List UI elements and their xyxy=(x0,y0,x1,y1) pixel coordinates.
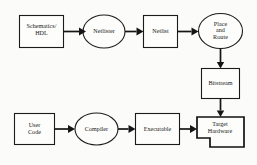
node-target-hardware-shape xyxy=(197,117,244,147)
node-executable-shape xyxy=(136,114,180,145)
edge-netlist-to-place-route xyxy=(178,28,199,36)
edge-usercode-to-compiler xyxy=(55,125,76,133)
node-netlister-shape xyxy=(83,15,125,48)
edge-compiler-to-executable xyxy=(118,125,136,133)
node-compiler-shape xyxy=(75,113,118,145)
node-schematics-hdl-shape xyxy=(20,16,64,48)
node-netlist-shape xyxy=(144,16,178,48)
edge-bitstream-to-target xyxy=(217,99,224,118)
edge-place-route-to-bitstream xyxy=(217,49,224,69)
diagram-svg xyxy=(0,0,257,165)
edge-netlister-to-netlist xyxy=(125,28,144,36)
edge-schematics-to-netlister xyxy=(64,28,87,36)
diagram-canvas: Schematics/ HDL Netlister Netlist Place … xyxy=(0,0,257,165)
node-bitstream-shape xyxy=(202,69,240,99)
edge-executable-to-target xyxy=(180,125,198,133)
node-place-and-route-shape xyxy=(199,14,243,49)
node-user-code-shape xyxy=(15,114,55,145)
